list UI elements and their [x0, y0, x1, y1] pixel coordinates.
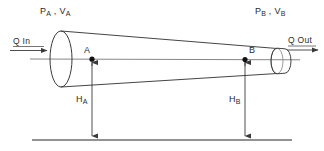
outlet-stub-lower — [277, 73, 285, 74]
head-b-subscript: B — [236, 98, 241, 105]
pipe-centerline — [30, 59, 300, 60]
point-b-label: B — [249, 45, 255, 55]
head-a-subscript: A — [83, 98, 88, 105]
point-a-label: A — [84, 45, 90, 55]
head-a-label: HA — [76, 94, 87, 105]
pipe-flow-diagram: PA , VA PB , VB Q In Q Out A B HA HB — [0, 0, 324, 151]
left-velocity-subscript: A — [66, 10, 71, 17]
head-b-symbol: H — [229, 94, 236, 104]
head-b-label: HB — [229, 94, 240, 105]
outlet-stub-upper — [277, 48, 285, 49]
point-a-marker — [89, 57, 94, 62]
right-velocity-subscript: B — [281, 10, 286, 17]
outlet-end-cap-arc — [285, 49, 291, 73]
diagram-canvas — [0, 0, 324, 151]
inlet-flow-label: Q In — [13, 36, 30, 46]
right-state-label: PB , VB — [255, 6, 285, 17]
point-b-marker — [242, 57, 247, 62]
left-state-label: PA , VA — [40, 6, 70, 17]
outlet-flow-label: Q Out — [288, 35, 312, 45]
outlet-rim-arc — [271, 48, 277, 74]
pipe-wall-upper — [61, 31, 277, 49]
head-a-symbol: H — [76, 94, 83, 104]
